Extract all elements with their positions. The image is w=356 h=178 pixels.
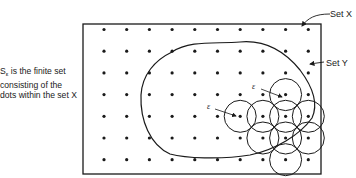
grid-dot bbox=[148, 28, 151, 31]
grid-dot bbox=[284, 136, 287, 139]
grid-dot bbox=[102, 93, 105, 96]
grid-dot bbox=[171, 136, 174, 139]
grid-dot bbox=[125, 28, 128, 31]
grid-dot bbox=[307, 115, 310, 118]
grid-dot bbox=[284, 28, 287, 31]
grid-dot bbox=[261, 28, 264, 31]
grid-dot bbox=[148, 50, 151, 53]
grid-dot bbox=[125, 50, 128, 53]
grid-dot bbox=[193, 71, 196, 74]
grid-dot bbox=[193, 28, 196, 31]
grid-dot bbox=[239, 28, 242, 31]
grid-dot bbox=[171, 93, 174, 96]
grid-dot bbox=[216, 136, 219, 139]
grid-dot bbox=[307, 93, 310, 96]
grid-dot bbox=[125, 115, 128, 118]
grid-dot bbox=[307, 136, 310, 139]
grid-dot bbox=[261, 115, 264, 118]
grid-dot bbox=[307, 28, 310, 31]
grid-dot bbox=[261, 136, 264, 139]
grid-dot bbox=[102, 115, 105, 118]
grid-dot bbox=[216, 71, 219, 74]
grid-dot bbox=[171, 158, 174, 161]
grid-dot bbox=[193, 93, 196, 96]
grid-dot bbox=[148, 115, 151, 118]
grid-dot bbox=[193, 158, 196, 161]
epsilon-radius-arrow-top bbox=[261, 89, 282, 97]
grid-dot bbox=[284, 50, 287, 53]
epsilon-label-top: ε bbox=[252, 82, 256, 91]
grid-dot bbox=[307, 50, 310, 53]
grid-dot bbox=[239, 136, 242, 139]
grid-dot bbox=[171, 115, 174, 118]
grid-dot bbox=[216, 93, 219, 96]
set-x-label: Set X bbox=[330, 9, 352, 19]
grid-dot bbox=[261, 71, 264, 74]
set-y-pointer bbox=[310, 62, 324, 64]
grid-dot bbox=[284, 115, 287, 118]
grid-dot bbox=[216, 158, 219, 161]
grid-dot bbox=[307, 158, 310, 161]
grid-dot bbox=[171, 71, 174, 74]
grid-dot bbox=[125, 158, 128, 161]
grid-dot bbox=[216, 50, 219, 53]
grid-dot bbox=[284, 71, 287, 74]
grid-dot bbox=[216, 28, 219, 31]
set-diagram: Set X Set Y ε ε bbox=[0, 0, 356, 178]
set-y-label: Set Y bbox=[326, 58, 348, 68]
grid-dot bbox=[102, 28, 105, 31]
grid-dot bbox=[239, 71, 242, 74]
grid-dot bbox=[102, 136, 105, 139]
grid-dot bbox=[239, 93, 242, 96]
grid-dot bbox=[125, 71, 128, 74]
grid-dot bbox=[284, 158, 287, 161]
grid-dot bbox=[193, 115, 196, 118]
grid-dot bbox=[102, 71, 105, 74]
grid-dot bbox=[261, 50, 264, 53]
grid-dot bbox=[239, 50, 242, 53]
grid-dot bbox=[193, 136, 196, 139]
grid-dot bbox=[171, 28, 174, 31]
grid-dot bbox=[239, 158, 242, 161]
grid-dot bbox=[307, 71, 310, 74]
grid-dot bbox=[102, 50, 105, 53]
grid-dot bbox=[125, 93, 128, 96]
set-x-rectangle bbox=[83, 24, 321, 174]
grid-dot bbox=[125, 136, 128, 139]
grid-dot bbox=[216, 115, 219, 118]
grid-dot bbox=[148, 93, 151, 96]
grid-dot bbox=[261, 158, 264, 161]
grid-dot bbox=[284, 93, 287, 96]
grid-dot bbox=[193, 50, 196, 53]
set-y-curve bbox=[141, 42, 315, 158]
grid-dot bbox=[239, 115, 242, 118]
epsilon-label-left: ε bbox=[207, 102, 211, 111]
epsilon-circles bbox=[224, 79, 324, 176]
grid-dot bbox=[148, 158, 151, 161]
grid-dot bbox=[102, 158, 105, 161]
grid-dot bbox=[261, 93, 264, 96]
